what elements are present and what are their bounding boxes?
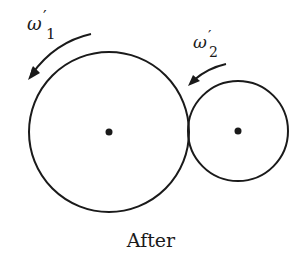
large-wheel-center-dot bbox=[106, 129, 113, 136]
omega2-subscript: 2 bbox=[209, 44, 218, 60]
omega2-prime: ′ bbox=[208, 27, 212, 45]
omega1-arrowhead-icon bbox=[28, 66, 40, 80]
caption-after: After bbox=[126, 229, 176, 251]
small-wheel bbox=[188, 81, 288, 181]
omega2-rotation-arrow-icon bbox=[194, 64, 226, 80]
omega1-subscript: 1 bbox=[46, 25, 56, 43]
gears-diagram: ω ′ 1 ω ′ 2 After bbox=[0, 0, 303, 259]
omega1-prime: ′ bbox=[43, 7, 47, 26]
omega1-symbol: ω bbox=[27, 13, 42, 34]
large-wheel bbox=[29, 52, 189, 212]
omega2-symbol: ω bbox=[193, 32, 207, 52]
small-wheel-center-dot bbox=[235, 128, 242, 135]
